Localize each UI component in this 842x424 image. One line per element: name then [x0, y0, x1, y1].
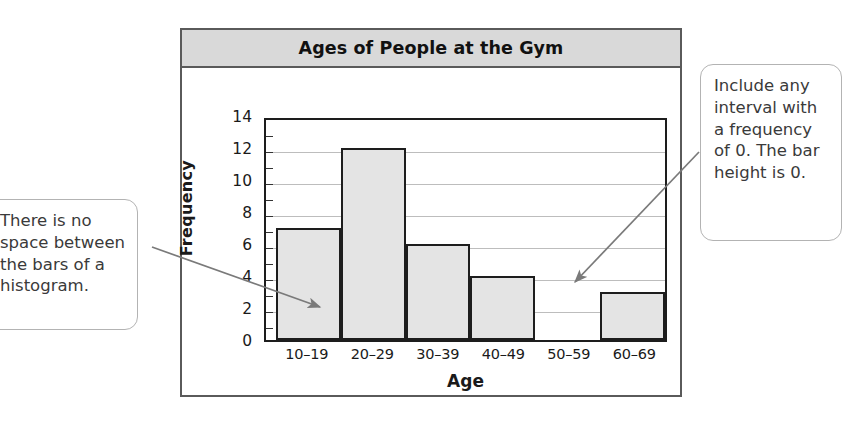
bar-slot-20–29 [341, 120, 406, 340]
y-axis-tickmark-12 [266, 152, 273, 153]
bar-slot-60–69 [600, 120, 665, 340]
y-axis-tickmark-1 [266, 328, 273, 329]
histogram-figure: Ages of People at the Gym Frequency 1412… [180, 28, 682, 397]
callout-left-text: There is no space between the bars of a … [0, 211, 125, 295]
bar-40–49 [470, 276, 535, 340]
callout-left: There is no space between the bars of a … [0, 199, 138, 330]
y-axis-tickmark-13 [266, 136, 273, 137]
bar-10–19 [276, 228, 341, 340]
bar-20–29 [341, 148, 406, 340]
page-title: Ages of People at the Gym [299, 38, 564, 58]
plot-area [264, 118, 667, 342]
y-axis-tickmark-11 [266, 168, 273, 169]
chart-title-band: Ages of People at the Gym [182, 30, 680, 68]
x-axis-tick-60–69: 60–69 [602, 346, 668, 362]
plot-wrapper: Frequency 14121086420 10–1920–2930–3940–… [182, 68, 680, 395]
bar-30–39 [406, 244, 471, 340]
y-axis-title: Frequency [177, 160, 201, 256]
y-axis-tick-2: 2 [242, 302, 252, 318]
y-axis-tickmark-9 [266, 200, 273, 201]
bar-slot-40–49 [470, 120, 535, 340]
bars-container [276, 120, 665, 340]
y-axis-tickmark-4 [266, 280, 273, 281]
y-axis-tickmark-6 [266, 248, 273, 249]
y-axis-tick-0: 0 [242, 334, 252, 350]
y-axis-tickmark-3 [266, 296, 273, 297]
y-axis-tickmark-8 [266, 216, 273, 217]
x-axis-tick-10–19: 10–19 [274, 346, 340, 362]
bar-slot-30–39 [406, 120, 471, 340]
x-axis-tick-40–49: 40–49 [471, 346, 537, 362]
y-axis-tickmark-2 [266, 312, 273, 313]
x-axis-tick-50–59: 50–59 [536, 346, 602, 362]
x-axis-tick-30–39: 30–39 [405, 346, 471, 362]
bar-60–69 [600, 292, 665, 340]
callout-right: Include any interval with a frequency of… [700, 64, 842, 241]
bar-slot-50–59 [535, 120, 600, 340]
y-axis-tick-10: 10 [232, 174, 252, 190]
y-axis-tick-8: 8 [242, 206, 252, 222]
y-axis-tick-4: 4 [242, 270, 252, 286]
bar-slot-10–19 [276, 120, 341, 340]
y-axis-tick-14: 14 [232, 110, 252, 126]
x-axis-title: Age [264, 371, 667, 391]
callout-right-text: Include any interval with a frequency of… [714, 76, 819, 182]
y-axis-tickmark-7 [266, 232, 273, 233]
x-axis-tick-20–29: 20–29 [340, 346, 406, 362]
y-axis-tickmark-10 [266, 184, 273, 185]
y-axis-tick-labels: 14121086420 [210, 118, 256, 342]
y-axis-tick-6: 6 [242, 238, 252, 254]
x-axis-tick-labels: 10–1920–2930–3940–4950–5960–69 [274, 346, 667, 362]
y-axis-tickmark-5 [266, 264, 273, 265]
y-axis-tick-12: 12 [232, 142, 252, 158]
